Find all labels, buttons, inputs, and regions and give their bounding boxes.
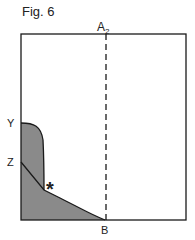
label-z: Z [7,156,14,168]
label-a2: A2 [97,20,109,36]
label-b: B [101,224,108,236]
asterisk-marker: * [46,178,54,201]
label-y: Y [7,117,14,129]
shaded-region [21,123,105,220]
